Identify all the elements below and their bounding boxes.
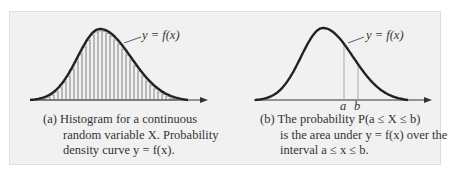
caption-a-line-2: random variable X. Probability <box>43 128 223 144</box>
caption-a-line-3: density curve y = f(x). <box>43 143 223 159</box>
axis-arrow-a-icon <box>200 97 208 103</box>
caption-b-line-1: (b) The probability P(a ≤ X ≤ b) <box>260 112 440 128</box>
leader-line-a <box>124 37 141 43</box>
axis-arrow-b-icon <box>424 97 432 103</box>
curve-label-b: y = f(x) <box>366 28 404 43</box>
caption-b-line-3: interval a ≤ x ≤ b. <box>260 143 440 159</box>
caption-a-line-1: (a) Histogram for a continuous <box>43 112 223 128</box>
caption-a: (a) Histogram for a continuous random va… <box>43 112 223 159</box>
leader-line-b <box>348 37 364 43</box>
caption-b: (b) The probability P(a ≤ X ≤ b) is the … <box>260 112 440 159</box>
caption-b-line-2: is the area under y = f(x) over the <box>260 128 440 144</box>
curve-label-a: y = f(x) <box>142 28 180 43</box>
